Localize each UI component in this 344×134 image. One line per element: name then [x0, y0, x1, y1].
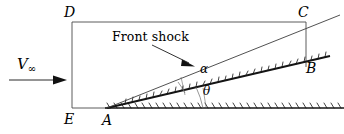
velocity-symbol: V	[17, 55, 28, 73]
angle-label-alpha: α	[200, 63, 208, 75]
front-shock-leader-arrowhead	[181, 60, 195, 67]
vertex-label-c: C	[298, 5, 309, 19]
schematic-drawing	[0, 0, 344, 134]
angle-label-theta: θ	[203, 85, 210, 97]
angle-alpha-tick	[181, 77, 185, 95]
vertex-label-b: B	[306, 61, 316, 75]
velocity-subscript: ∞	[28, 63, 36, 74]
figure-container: D C B E A α θ Front shock V∞	[0, 0, 344, 134]
vertex-label-e: E	[64, 112, 74, 126]
freestream-velocity-label: V∞	[17, 57, 36, 74]
vertex-label-d: D	[64, 5, 75, 19]
vertex-label-a: A	[102, 113, 112, 127]
freestream-arrow-head	[53, 76, 67, 85]
front-shock-annotation-label: Front shock	[112, 31, 189, 44]
